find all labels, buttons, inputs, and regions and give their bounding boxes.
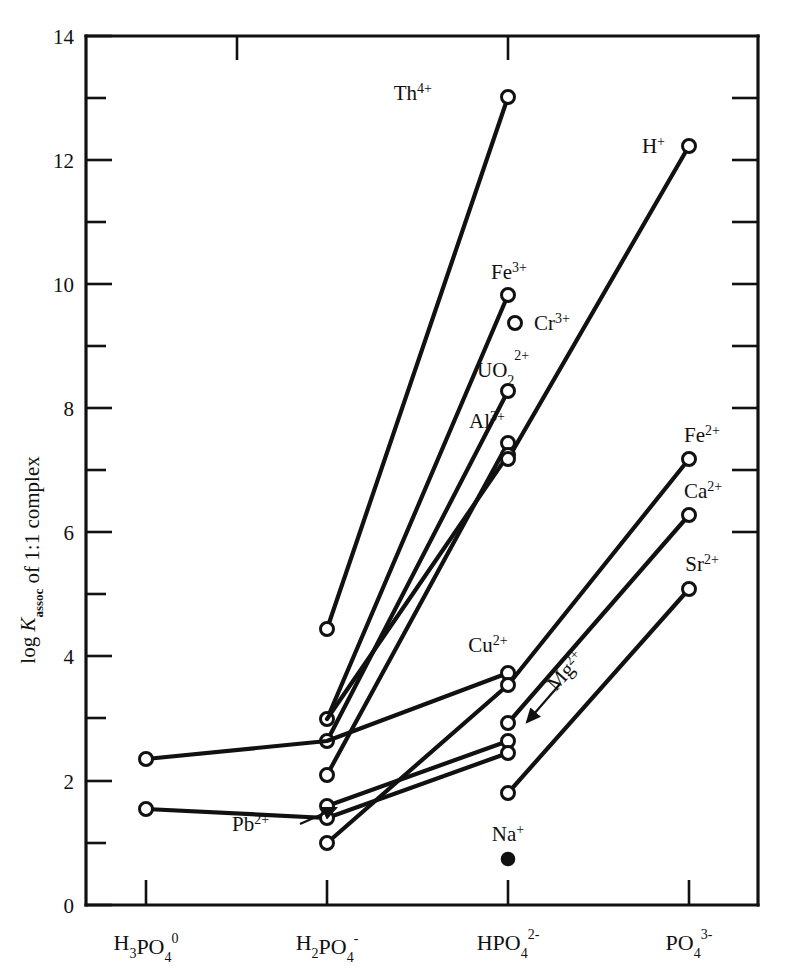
- data-point-h-po4[interactable]: [683, 140, 696, 153]
- y-tick-label: 0: [64, 894, 75, 918]
- data-point-ca2-po4[interactable]: [683, 509, 696, 522]
- data-point-sr2-po4[interactable]: [683, 583, 696, 596]
- series-cr3: [509, 317, 522, 330]
- point-label-cr3: Cr3+: [534, 311, 570, 336]
- data-point-cu2-h3po4[interactable]: [140, 753, 153, 766]
- y-tick-label: 6: [64, 521, 75, 545]
- data-point-unlabelled-h2po4-10[interactable]: [321, 837, 334, 850]
- point-label-al3: Al3+: [469, 409, 505, 434]
- y-axis-title-italic: K: [16, 617, 40, 633]
- data-point-th4-h2po4[interactable]: [321, 623, 334, 636]
- y-tick-label: 12: [53, 149, 74, 173]
- point-label-na: Na+: [492, 822, 525, 847]
- y-tick-labels: 14 12 10 8 6 4 2 0: [53, 25, 75, 918]
- series-line-fe2: [508, 459, 689, 685]
- point-label-pb2: Pb2+: [232, 812, 269, 837]
- chart-svg: 14 12 10 8 6 4 2 0 log Kassoc of 1:1 com…: [0, 0, 786, 977]
- series-line-h: [508, 146, 689, 459]
- axis-frame: [86, 36, 758, 905]
- series-na: [502, 853, 514, 865]
- data-point-al3-h2po4[interactable]: [321, 769, 334, 782]
- data-point-unlabelled-hpo4-355[interactable]: [502, 679, 515, 692]
- data-point-fe2-po4[interactable]: [683, 453, 696, 466]
- data-point-pb2-hpo4[interactable]: [502, 747, 515, 760]
- point-labels: Th4+ H+ Fe3+ Cr3+ UO22+ Al3+ Fe2+ Ca2+: [232, 81, 722, 847]
- series-mg2: [321, 735, 515, 813]
- svg-text:log Kassoc of 1:1 complex: log Kassoc of 1:1 complex: [16, 456, 46, 664]
- x-tick-labels: H3PO40 H2PO4- HPO42- PO43-: [113, 927, 712, 965]
- data-point-ca2-hpo4[interactable]: [502, 717, 515, 730]
- data-point-cr3-hpo4[interactable]: [509, 317, 522, 330]
- point-label-h: H+: [642, 134, 665, 159]
- chart-figure: 14 12 10 8 6 4 2 0 log Kassoc of 1:1 com…: [0, 0, 786, 977]
- data-point-h-hpo4[interactable]: [502, 453, 515, 466]
- series-ca2: [502, 509, 696, 730]
- point-label-mg2: Mg2+: [542, 646, 590, 695]
- point-label-fe2: Fe2+: [684, 423, 720, 448]
- series-line-unlabelled-725: [327, 455, 508, 719]
- data-point-th4-hpo4[interactable]: [502, 91, 515, 104]
- series-fe2: [508, 453, 696, 686]
- top-axis-ticks: [237, 36, 508, 60]
- series-line-uo2: [327, 391, 508, 741]
- y-axis-title-subscript: assoc: [31, 588, 46, 617]
- point-label-ca2: Ca2+: [684, 479, 722, 504]
- point-label-cu2: Cu2+: [468, 633, 508, 658]
- point-label-th4: Th4+: [394, 81, 432, 106]
- series-line-mg2: [327, 741, 508, 806]
- x-tick-label-h3po4: H3PO40: [113, 930, 178, 965]
- data-point-pb2-h3po4[interactable]: [140, 803, 153, 816]
- y-minor-ticks: [86, 98, 106, 843]
- y-tick-label: 8: [64, 397, 75, 421]
- series-unlabelled-355: [321, 679, 515, 850]
- y-tick-label: 2: [64, 770, 75, 794]
- series-h-anchor: [502, 453, 515, 466]
- y-axis-title-suffix: of 1:1 complex: [20, 456, 44, 589]
- right-axis-ticks: [732, 98, 758, 532]
- series-fe3: [321, 289, 515, 726]
- point-label-sr2: Sr2+: [685, 552, 719, 577]
- data-point-sr2-hpo4[interactable]: [502, 787, 515, 800]
- data-point-na-hpo4[interactable]: [502, 853, 514, 865]
- series-h: [508, 140, 696, 460]
- x-tick-label-po4: PO43-: [666, 927, 713, 961]
- x-tick-label-hpo4: HPO42-: [477, 927, 540, 961]
- x-axis-ticks: [146, 880, 689, 905]
- data-point-fe3-hpo4[interactable]: [502, 289, 515, 302]
- series-sr2: [502, 583, 696, 800]
- x-tick-label-h2po4: H2PO4-: [296, 930, 359, 965]
- series-unlabelled-725: [327, 449, 515, 720]
- y-tick-label: 4: [64, 645, 75, 669]
- point-label-fe3: Fe3+: [491, 260, 527, 285]
- y-axis-title-prefix: log: [16, 632, 40, 664]
- y-tick-label: 14: [53, 25, 75, 49]
- y-tick-label: 10: [53, 273, 74, 297]
- y-axis-title: log Kassoc of 1:1 complex: [16, 456, 46, 664]
